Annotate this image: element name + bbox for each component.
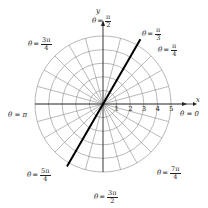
fraction: π2 xyxy=(105,14,111,29)
r-tick-5: 5 xyxy=(169,106,173,113)
equals-sign: = xyxy=(99,193,105,201)
theta-symbol: θ xyxy=(142,30,146,38)
radial-line xyxy=(103,86,169,104)
denominator: 4 xyxy=(172,51,176,58)
radial-line xyxy=(103,104,121,170)
radial-line xyxy=(44,70,103,104)
r-tick-1: 1 xyxy=(115,106,119,113)
equals-sign: = xyxy=(163,46,169,54)
angle-label-pi-over-4: θ=π4 xyxy=(158,43,177,58)
theta-symbol: θ xyxy=(92,17,96,25)
radial-line xyxy=(103,38,121,104)
equals-sign: = xyxy=(33,40,39,48)
theta-symbol: θ xyxy=(28,40,32,48)
fraction: 7π4 xyxy=(170,166,180,181)
r-tick-2: 2 xyxy=(128,106,132,113)
angle-label-pi-over-2: θ=π2 xyxy=(92,14,111,29)
denominator: 4 xyxy=(43,176,47,183)
fraction: 5π4 xyxy=(40,168,50,183)
equals-sign: = xyxy=(162,169,168,177)
denominator: 3 xyxy=(156,35,160,42)
denominator: 2 xyxy=(110,198,114,205)
theta-symbol: θ xyxy=(27,171,31,179)
radial-line xyxy=(85,104,103,170)
denominator: 4 xyxy=(44,45,48,52)
angle-label-pi-over-3: θ=π3 xyxy=(142,27,161,42)
x-axis-label: x xyxy=(196,97,200,104)
radial-line xyxy=(85,38,103,104)
radial-line xyxy=(55,56,103,104)
r-tick-4: 4 xyxy=(155,106,159,113)
radial-line xyxy=(37,104,103,122)
angle-label-seven-pi-over-4: θ=7π4 xyxy=(157,166,181,181)
denominator: 4 xyxy=(173,174,177,181)
equals-sign: = xyxy=(147,30,153,38)
radial-line xyxy=(69,45,103,104)
theta-pi-over-3-line xyxy=(67,39,140,166)
angle-label-five-pi-over-4: θ=5π4 xyxy=(27,168,51,183)
angle-label-three-pi-over-2: θ=3π2 xyxy=(94,190,118,205)
r-tick-3: 3 xyxy=(142,106,146,113)
theta-symbol: θ xyxy=(157,169,161,177)
x-axis-arrow-icon xyxy=(182,102,187,106)
theta-symbol: θ xyxy=(94,193,98,201)
theta-symbol: θ xyxy=(158,46,162,54)
fraction: 3π2 xyxy=(107,190,117,205)
fraction: 3π4 xyxy=(41,37,51,52)
equals-sign: = xyxy=(97,17,103,25)
angle-label-theta-pi: θ = π xyxy=(8,112,27,119)
denominator: 2 xyxy=(106,22,110,29)
fraction: π3 xyxy=(155,27,161,42)
angle-label-theta-zero: θ = 0 xyxy=(180,111,199,118)
polar-diagram: y x 12345 θ=π2θ=π3θ=π4θ=3π4θ=5π4θ=7π4θ=3… xyxy=(0,0,208,208)
angle-label-three-pi-over-4: θ=3π4 xyxy=(28,37,52,52)
fraction: π4 xyxy=(171,43,177,58)
radial-line xyxy=(37,86,103,104)
equals-sign: = xyxy=(32,171,38,179)
